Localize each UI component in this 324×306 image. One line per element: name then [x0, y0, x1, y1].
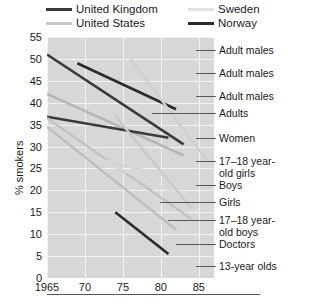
annotation-adults: Adults — [219, 108, 248, 120]
legend-item-united-states[interactable]: United States — [46, 18, 145, 29]
y-tick-30: 30 — [20, 141, 42, 153]
annotation-girls: Girls — [219, 197, 241, 209]
y-tick-10: 10 — [20, 228, 42, 240]
annotation-boys: Boys — [219, 180, 242, 192]
legend-item-united-kingdom[interactable]: United Kingdom — [46, 4, 158, 15]
y-tick-40: 40 — [20, 97, 42, 109]
series-annotations: Adult malesAdult malesAdult malesAdultsW… — [214, 37, 324, 282]
y-tick-45: 45 — [20, 75, 42, 87]
annotation-adult-males: Adult males — [219, 68, 274, 80]
legend-item-label: United Kingdom — [76, 4, 158, 15]
x-tick-80: 80 — [141, 281, 181, 293]
annotation-doctors: Doctors — [219, 239, 255, 251]
annotation-17-18-year-old-boys: 17–18 year-old boys — [219, 215, 275, 238]
y-tick-5: 5 — [20, 250, 42, 262]
y-tick-35: 35 — [20, 119, 42, 131]
x-tick-75: 75 — [103, 281, 143, 293]
smoking-prevalence-chart: United KingdomUnited StatesSwedenNorway … — [0, 0, 324, 306]
y-tick-20: 20 — [20, 184, 42, 196]
legend-item-label: Sweden — [218, 4, 260, 15]
legend-swatch-icon — [188, 8, 214, 11]
annotation-13-year-olds: 13-year olds — [219, 261, 277, 273]
annotation-women: Women — [219, 133, 255, 145]
annotation-adult-males: Adult males — [219, 91, 274, 103]
x-tick-85: 85 — [179, 281, 219, 293]
x-tick-70: 70 — [65, 281, 105, 293]
annotation-17-18-year-old-girls: 17–18 year-old girls — [219, 156, 275, 179]
legend-item-sweden[interactable]: Sweden — [188, 4, 260, 15]
chart-legend: United KingdomUnited StatesSwedenNorway — [0, 0, 324, 32]
legend-item-norway[interactable]: Norway — [188, 18, 257, 29]
y-tick-50: 50 — [20, 53, 42, 65]
bottom-rule — [47, 294, 260, 295]
y-tick-55: 55 — [20, 31, 42, 43]
y-tick-15: 15 — [20, 206, 42, 218]
legend-swatch-icon — [46, 8, 72, 11]
legend-swatch-icon — [46, 22, 72, 25]
annotation-adult-males: Adult males — [219, 45, 274, 57]
legend-swatch-icon — [188, 22, 214, 25]
x-tick-1965: 1965 — [27, 281, 67, 293]
legend-item-label: Norway — [218, 18, 257, 29]
legend-item-label: United States — [76, 18, 145, 29]
y-tick-25: 25 — [20, 162, 42, 174]
